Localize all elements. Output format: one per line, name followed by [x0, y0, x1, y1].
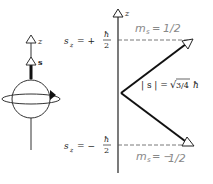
svg-text:= −: = − [77, 141, 95, 151]
spinning-particle-figure: z s [2, 35, 60, 150]
rotation-arrow-icon [50, 90, 56, 100]
upper-sz-label: s z = + ħ 2 [64, 30, 111, 50]
spin-vector-label: s [38, 57, 43, 67]
svg-text:2: 2 [104, 146, 109, 155]
spin-up-arrowhead [182, 39, 193, 49]
svg-text:3/4: 3/4 [176, 81, 189, 90]
handwritten-ms-up: m s = 1/2 [135, 22, 181, 36]
spin-quantization-figure: z s z = + ħ 2 s z = − ħ 2 m s [64, 9, 199, 173]
spin-vector-arrowhead [26, 57, 36, 65]
svg-text:z: z [69, 41, 74, 48]
svg-text:ħ: ħ [193, 80, 199, 90]
svg-text:=: = [152, 23, 160, 34]
spin-down-vector [121, 93, 185, 141]
left-z-label: z [37, 37, 43, 46]
svg-text:ħ: ħ [104, 30, 109, 39]
magnitude-label: | s | = √ 3/4 ħ [141, 79, 199, 91]
lower-sz-label: s z = − ħ 2 [64, 135, 111, 155]
svg-text:s: s [64, 36, 69, 46]
svg-text:s: s [147, 156, 151, 164]
spin-diagram: z s z s z = + ħ 2 [0, 0, 213, 184]
svg-text:s: s [146, 28, 150, 36]
svg-text:1/2: 1/2 [168, 152, 186, 165]
svg-text:| s | =: | s | = [141, 80, 168, 91]
sphere [12, 80, 50, 118]
right-z-label: z [124, 9, 130, 18]
svg-text:z: z [69, 146, 74, 153]
left-z-arrowhead [26, 35, 36, 43]
svg-text:s: s [64, 141, 69, 151]
svg-text:m: m [136, 150, 147, 163]
spin-down-arrowhead [182, 137, 194, 146]
svg-text:1/2: 1/2 [163, 22, 181, 35]
svg-text:m: m [135, 22, 146, 35]
handwritten-ms-down: m s = − 1/2 [136, 150, 186, 165]
right-z-arrowhead [113, 9, 123, 17]
svg-text:ħ: ħ [104, 135, 109, 144]
svg-text:2: 2 [104, 41, 109, 50]
svg-text:= +: = + [77, 36, 95, 46]
